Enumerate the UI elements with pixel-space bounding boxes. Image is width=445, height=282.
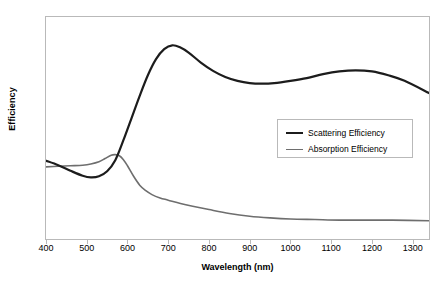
legend-item-absorption: Absorption Efficiency bbox=[286, 141, 412, 157]
x-axis-tick-mark bbox=[87, 240, 88, 244]
chart-legend: Scattering Efficiency Absorption Efficie… bbox=[277, 119, 413, 158]
legend-item-scattering: Scattering Efficiency bbox=[286, 125, 412, 141]
y-axis-title: Efficiency bbox=[7, 69, 17, 149]
x-axis-tick-mark bbox=[413, 240, 414, 244]
x-axis-tick-mark bbox=[127, 240, 128, 244]
legend-label-scattering: Scattering Efficiency bbox=[308, 128, 385, 138]
x-axis-tick-mark bbox=[331, 240, 332, 244]
legend-label-absorption: Absorption Efficiency bbox=[308, 144, 387, 154]
x-axis-tick-mark bbox=[372, 240, 373, 244]
series-line-absorption bbox=[46, 155, 429, 221]
legend-swatch-absorption-icon bbox=[286, 149, 303, 150]
x-axis-tick-mark bbox=[250, 240, 251, 244]
x-axis-tick-mark bbox=[290, 240, 291, 244]
efficiency-line-chart: Efficiency Wavelength (nm) 0.000.501.001… bbox=[0, 0, 445, 282]
x-axis-tick-mark bbox=[209, 240, 210, 244]
x-axis-title: Wavelength (nm) bbox=[45, 262, 430, 272]
legend-swatch-scattering-icon bbox=[286, 132, 303, 134]
x-axis-tick-mark bbox=[168, 240, 169, 244]
x-axis-tick-mark bbox=[46, 240, 47, 244]
